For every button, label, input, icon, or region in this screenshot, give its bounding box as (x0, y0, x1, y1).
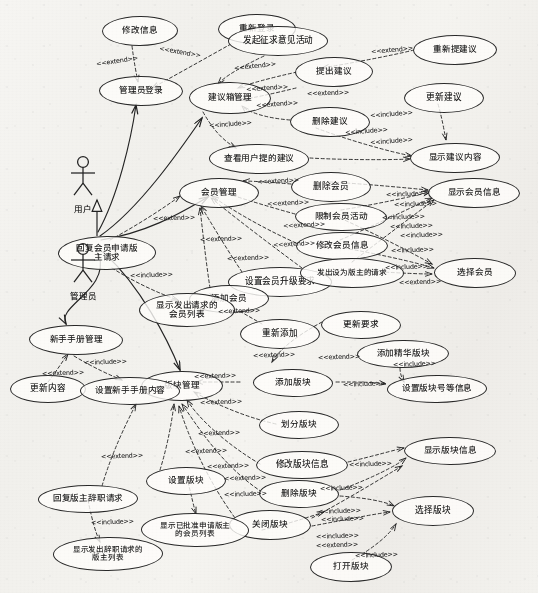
stereotype-label-include: <<include>> (130, 270, 173, 279)
actor-user[interactable]: 用户 (56, 155, 110, 214)
use-case-label: 修改信息 (120, 26, 159, 35)
stereotype-label-extend: <<extend>> (194, 371, 236, 380)
use-case-label: 新手手册管理 (48, 335, 105, 345)
use-case-label: 重新添加 (260, 329, 299, 338)
use-case-show_board_info[interactable]: 显示版块信息 (404, 437, 496, 465)
use-case-label: 更新要求 (341, 320, 380, 329)
stereotype-label-extend: <<extend>> (42, 368, 84, 377)
use-case-show_member_info[interactable]: 显示会员信息 (428, 178, 520, 208)
use-case-label: 修改版块信息 (274, 460, 331, 469)
use-case-label: 发出设为版主的请求 (315, 269, 389, 277)
use-case-label: 关闭版块 (250, 520, 289, 529)
use-case-label: 删除版块 (279, 489, 318, 498)
actor-stick-figure-icon (56, 155, 110, 197)
use-case-update_suggest[interactable]: 更新建议 (404, 83, 484, 113)
use-case-label: 显示已批准申请版主的会员列表 (158, 522, 232, 539)
actor-label: 管理员 (56, 289, 110, 301)
stereotype-label-extend: <<extend>> (200, 234, 242, 243)
use-case-label: 重新提建议 (431, 45, 479, 54)
use-case-update_content[interactable]: 更新内容 (10, 375, 86, 403)
use-case-admin_login[interactable]: 管理员登录 (99, 76, 183, 106)
use-case-label: 提出建议 (314, 67, 353, 76)
stereotype-label-extend: <<extend>> (153, 213, 195, 222)
stereotype-label-extend: <<extend>> (207, 461, 249, 470)
stereotype-label-extend: <<extend>> (200, 397, 242, 406)
stereotype-label-include: <<include>> (390, 221, 433, 230)
use-case-select_board[interactable]: 选择版块 (392, 496, 474, 526)
stereotype-label-extend: <<extend>> (185, 446, 227, 455)
use-case-label: 更新建议 (424, 93, 463, 102)
use-case-set_newbie_content[interactable]: 设置新手手册内容 (80, 377, 180, 405)
stereotype-label-include: <<include>> (393, 359, 436, 368)
use-case-send_mod_request[interactable]: 发出设为版主的请求 (300, 258, 404, 289)
use-case-label: 删除会员 (311, 182, 350, 191)
use-case-readd[interactable]: 重新添加 (240, 319, 320, 349)
use-case-label: 显示发出辞职请求的版主列表 (71, 546, 145, 563)
stereotype-label-extend: <<extend>> (318, 352, 360, 361)
use-case-label: 发起征求意见活动 (241, 36, 315, 45)
stereotype-label-include: <<include>> (224, 489, 267, 498)
use-case-label: 打开版块 (331, 562, 370, 571)
stereotype-label-include: <<include>> (320, 483, 363, 492)
use-case-label: 设置版块号等信息 (400, 384, 474, 394)
stereotype-label-extend: <<extend>> (399, 277, 441, 286)
use-case-modify_board_info[interactable]: 修改版块信息 (256, 451, 348, 479)
actor-stick-figure-icon (56, 242, 110, 284)
use-case-label: 建议箱管理 (206, 93, 254, 102)
use-case-label: 管理员登录 (117, 86, 165, 95)
use-case-label: 添加版块 (273, 378, 312, 387)
use-case-label: 显示会员信息 (446, 188, 503, 197)
use-case-label: 回复版主辞职请求 (51, 494, 125, 504)
stereotype-label-extend: <<extend>> (316, 540, 358, 549)
use-case-label: 显示建议内容 (427, 153, 484, 163)
stereotype-label-include: <<include>> (91, 517, 134, 526)
stereotype-label-include: <<include>> (84, 357, 127, 366)
stereotype-label-extend: <<extend>> (101, 451, 143, 460)
stereotype-label-include: <<include>> (386, 189, 429, 198)
use-case-label: 显示版块信息 (422, 446, 479, 455)
use-case-label: 添加精华版块 (375, 349, 432, 359)
use-case-label: 查看用户提的建议 (222, 154, 296, 164)
stereotype-label-extend: <<extend>> (253, 350, 295, 359)
stereotype-label-extend: <<extend>> (198, 428, 240, 437)
stereotype-label-include: <<include>> (355, 550, 398, 559)
use-case-label: 划分版块 (279, 420, 318, 429)
use-case-label: 会员管理 (199, 188, 238, 197)
use-case-start_opinion[interactable]: 发起征求意见活动 (228, 26, 328, 56)
stereotype-label-extend: <<extend>> (307, 88, 349, 97)
stereotype-label-include: <<include>> (394, 199, 437, 208)
use-case-label: 选择版块 (413, 506, 452, 515)
use-case-label: 删除建议 (310, 117, 349, 126)
stereotype-label-include: <<include>> (349, 459, 392, 468)
use-case-label: 选择会员 (455, 268, 494, 277)
stereotype-label-include: <<include>> (400, 230, 443, 239)
use-case-label: 修改会员信息 (314, 241, 371, 250)
stereotype-label-include: <<include>> (391, 245, 434, 254)
stereotype-label-extend: <<extend>> (227, 253, 269, 262)
stereotype-label-include: <<include>> (382, 212, 425, 221)
stereotype-label-extend: <<extend>> (218, 306, 260, 315)
use-case-label: 显示发出请求的会员列表 (154, 301, 220, 319)
actor-admin[interactable]: 管理员 (56, 242, 110, 301)
stereotype-label-include: <<include>> (343, 379, 386, 388)
use-case-diagram-canvas: 修改信息重新登录发起征求意见活动管理员登录建议箱管理提出建议重新提建议更新建议删… (0, 0, 538, 593)
use-case-select_member[interactable]: 选择会员 (434, 258, 516, 289)
actor-label: 用户 (56, 202, 110, 214)
stereotype-label-include: <<include>> (385, 262, 428, 271)
use-case-label: 设置版块 (166, 476, 205, 485)
stereotype-label-include: <<include>> (316, 531, 359, 540)
use-case-add_board[interactable]: 添加版块 (253, 369, 333, 398)
stereotype-label-extend: <<extend>> (224, 473, 266, 482)
use-case-label: 更新内容 (28, 384, 67, 393)
stereotype-label-include: <<include>> (321, 514, 364, 523)
use-case-label: 设置新手手册内容 (93, 386, 167, 395)
use-case-update_req[interactable]: 更新要求 (321, 311, 401, 339)
